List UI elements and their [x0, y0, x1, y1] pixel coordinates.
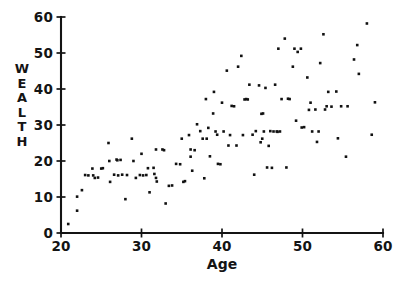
- data-point: [121, 173, 124, 176]
- data-point: [322, 33, 325, 36]
- data-point: [207, 127, 210, 130]
- data-point: [311, 130, 314, 133]
- data-point: [76, 195, 79, 198]
- data-point: [201, 137, 204, 140]
- y-axis-title-letter: L: [14, 106, 30, 121]
- data-point: [237, 65, 240, 68]
- data-point: [260, 113, 263, 116]
- axes: [61, 17, 383, 233]
- data-point: [292, 65, 295, 68]
- x-tick-label: 60: [373, 238, 392, 254]
- data-point: [67, 223, 70, 226]
- data-point: [255, 130, 258, 133]
- data-point: [205, 137, 208, 140]
- y-tick-label: 50: [20, 45, 53, 61]
- data-point: [264, 87, 267, 90]
- data-point: [152, 167, 155, 170]
- y-axis-title-letter: T: [14, 120, 30, 135]
- data-point: [240, 55, 243, 58]
- data-point: [303, 126, 306, 129]
- data-point: [189, 148, 192, 151]
- data-point: [156, 180, 159, 183]
- data-point: [235, 144, 238, 147]
- data-point: [330, 105, 333, 108]
- data-point: [345, 155, 348, 158]
- data-point: [214, 130, 217, 133]
- data-point: [171, 184, 174, 187]
- data-point: [227, 144, 230, 147]
- data-point: [212, 112, 215, 115]
- data-point: [182, 181, 185, 184]
- data-point: [102, 167, 105, 170]
- data-point: [314, 108, 317, 111]
- data-point: [266, 166, 269, 169]
- data-point: [180, 137, 183, 140]
- data-point: [116, 159, 119, 162]
- data-point: [135, 177, 138, 180]
- data-point: [117, 174, 120, 177]
- data-point: [337, 137, 340, 140]
- data-point: [366, 22, 369, 25]
- data-point: [189, 155, 192, 158]
- data-point: [216, 133, 219, 136]
- data-point: [97, 176, 100, 179]
- data-point: [209, 155, 212, 158]
- data-point: [140, 153, 143, 156]
- data-point: [287, 97, 290, 100]
- data-point: [119, 159, 122, 162]
- data-point: [108, 160, 111, 163]
- data-point: [253, 173, 256, 176]
- data-point: [164, 202, 167, 205]
- data-point: [316, 141, 319, 144]
- data-points: [67, 22, 376, 225]
- data-point: [124, 198, 127, 201]
- data-point: [259, 141, 262, 144]
- data-point: [306, 76, 309, 79]
- data-point: [221, 101, 224, 104]
- data-point: [222, 130, 225, 133]
- data-point: [309, 101, 312, 104]
- data-point: [296, 51, 299, 54]
- data-point: [213, 91, 216, 94]
- data-point: [188, 134, 191, 137]
- data-point: [356, 44, 359, 47]
- data-point: [91, 167, 94, 170]
- data-point: [193, 149, 196, 152]
- data-point: [191, 169, 194, 172]
- data-point: [163, 149, 166, 152]
- data-point: [179, 163, 182, 166]
- data-point: [248, 83, 251, 86]
- data-point: [263, 130, 266, 133]
- data-point: [113, 173, 116, 176]
- data-point: [233, 105, 236, 108]
- data-point: [94, 177, 97, 180]
- data-point: [217, 163, 220, 166]
- y-tick-label: 20: [20, 153, 53, 169]
- data-point: [324, 108, 327, 111]
- data-point: [276, 131, 279, 134]
- y-axis-title: WEALTH: [14, 62, 30, 150]
- data-point: [300, 126, 303, 129]
- data-point: [87, 174, 90, 177]
- data-point: [274, 83, 277, 86]
- data-point: [168, 185, 171, 188]
- x-tick-label: 30: [132, 238, 151, 254]
- data-point: [81, 189, 84, 192]
- data-point: [277, 47, 280, 50]
- data-point: [139, 174, 142, 177]
- x-axis-title: Age: [207, 256, 237, 272]
- y-axis-title-letter: W: [14, 62, 30, 77]
- data-point: [175, 163, 178, 166]
- data-point: [370, 133, 373, 136]
- data-point: [126, 174, 129, 177]
- data-point: [109, 181, 112, 184]
- data-point: [340, 105, 343, 108]
- data-point: [219, 163, 222, 166]
- x-tick-label: 50: [293, 238, 312, 254]
- data-point: [203, 177, 206, 180]
- data-point: [283, 37, 286, 40]
- data-point: [267, 145, 270, 148]
- data-point: [199, 130, 202, 133]
- data-point: [295, 119, 298, 122]
- data-point: [229, 134, 232, 137]
